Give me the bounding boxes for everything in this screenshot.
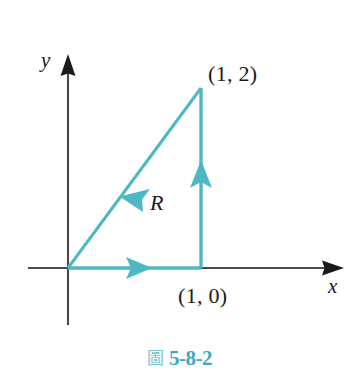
figure-caption: 圖5-8-2: [0, 345, 359, 372]
region-label-r: R: [150, 192, 163, 214]
x-axis-label: x: [328, 276, 337, 297]
figure-caption-number: 5-8-2: [169, 345, 212, 372]
boundary-segment-hypotenuse: [68, 88, 201, 268]
figure-container: y x R (1, 2) (1, 0) 圖5-8-2: [0, 0, 359, 386]
figure-glyph-icon: 圖: [147, 348, 164, 370]
coordinate-diagram: [0, 0, 359, 386]
region-boundary-group: [68, 88, 212, 279]
y-axis-arrowhead: [61, 54, 76, 76]
point-label-1-0: (1, 0): [178, 285, 227, 307]
y-axis-label: y: [41, 50, 50, 71]
point-label-1-2: (1, 2): [208, 63, 257, 85]
